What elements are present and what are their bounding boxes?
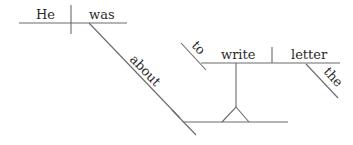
diagram-lines: He was about to write letter the xyxy=(0,0,353,145)
word-about: about xyxy=(127,52,164,90)
word-he: He xyxy=(36,7,55,22)
word-the: the xyxy=(321,64,347,90)
word-was: was xyxy=(89,7,115,22)
preposition-slant xyxy=(89,23,180,118)
stilt-fork xyxy=(222,107,249,122)
word-write: write xyxy=(221,47,256,62)
sentence-diagram: He was about to write letter the xyxy=(0,0,353,145)
word-letter: letter xyxy=(291,47,328,62)
